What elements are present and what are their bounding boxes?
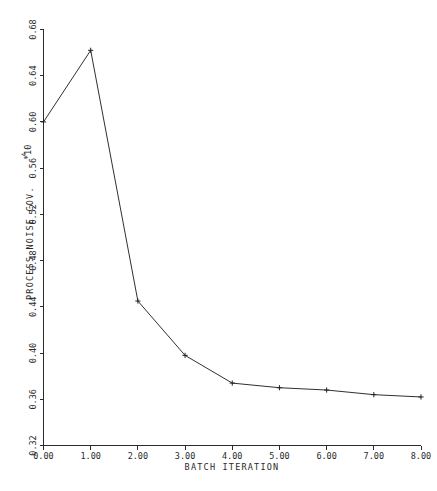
y-tick-label: 0.68 <box>28 19 38 39</box>
y-tick-label: 0.60 <box>28 112 38 132</box>
x-tick-label: 7.00 <box>364 451 384 461</box>
x-tick-label: 6.00 <box>316 451 336 461</box>
data-series-line <box>44 50 422 397</box>
x-tick-label: 0.00 <box>33 451 53 461</box>
x-tick-label: 4.00 <box>222 451 242 461</box>
y-axis-ticks <box>40 30 44 446</box>
y-tick-label: 0.56 <box>28 158 38 178</box>
y-tick-label: 0.36 <box>28 389 38 409</box>
x-tick-label: 5.00 <box>269 451 289 461</box>
x-axis-ticks <box>44 446 422 450</box>
data-point-markers <box>41 48 424 400</box>
y-tick-label: 0.40 <box>28 343 38 363</box>
x-axis-tick-labels: 0.001.002.003.004.005.006.007.008.00 <box>33 451 431 461</box>
figure-container: 0.320.360.400.440.480.520.560.600.640.68… <box>0 0 437 491</box>
svg-text:-4: -4 <box>20 152 27 160</box>
x-tick-label: 1.00 <box>80 451 100 461</box>
x-axis-title: BATCH ITERATION <box>185 462 280 472</box>
y-axis-scale-factor: *10 -4 <box>20 145 33 160</box>
y-tick-label: 0.64 <box>28 65 38 85</box>
figure-caption <box>0 480 437 491</box>
line-chart: 0.320.360.400.440.480.520.560.600.640.68… <box>0 0 437 491</box>
x-tick-label: 3.00 <box>175 451 195 461</box>
x-tick-label: 2.00 <box>128 451 148 461</box>
x-tick-label: 8.00 <box>411 451 431 461</box>
y-axis-title: PROCESS NOISE COV. <box>25 186 35 300</box>
